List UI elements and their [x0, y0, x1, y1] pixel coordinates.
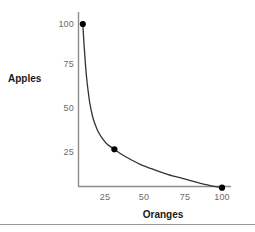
y-tick-label-100: 100	[52, 19, 74, 29]
data-point-c	[219, 185, 225, 191]
y-tick-label-75: 75	[52, 59, 74, 69]
x-axis-title: Oranges	[143, 209, 184, 220]
y-tick-label-25: 25	[52, 147, 74, 157]
data-point-a	[80, 21, 86, 27]
bottom-divider	[0, 224, 255, 225]
y-axis-title: Apples	[8, 73, 41, 84]
y-tick-label-50: 50	[52, 103, 74, 113]
data-point-b	[111, 146, 117, 152]
x-tick-label-100: 100	[214, 192, 230, 202]
x-tick-label-50: 50	[139, 192, 149, 202]
chart-figure: 100 75 50 25 25 50 75 100 Apples Oranges	[0, 0, 255, 232]
x-tick-label-25: 25	[100, 192, 110, 202]
frontier-curve	[83, 24, 222, 188]
x-tick-label-75: 75	[180, 192, 190, 202]
